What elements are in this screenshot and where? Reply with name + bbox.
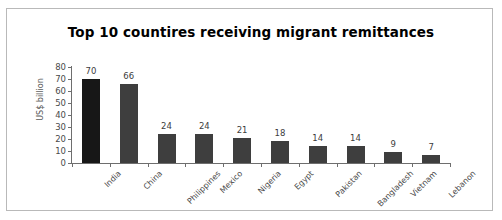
y-tick-label: 20 [55,134,66,144]
plot-area: 0102030405060708070India66China24Philipp… [72,67,450,163]
y-tick-mark [68,91,72,92]
bar-value-label: 24 [199,121,210,131]
y-tick-label: 70 [55,74,66,84]
bar [82,79,100,163]
bar-value-label: 21 [237,125,248,135]
bar [384,152,402,163]
x-tick-mark [185,163,186,167]
bar [422,155,440,163]
y-tick-label: 0 [61,158,66,168]
y-tick-label: 50 [55,98,66,108]
bar-value-label: 18 [274,128,285,138]
bar-value-label: 7 [428,142,433,152]
y-tick-mark [68,127,72,128]
bar [233,138,251,163]
bar [195,134,213,163]
bar-value-label: 14 [312,133,323,143]
x-tick-mark [374,163,375,167]
bar [158,134,176,163]
chart-figure: Top 10 countires receiving migrant remit… [0,0,502,220]
bar-value-label: 66 [123,71,134,81]
y-tick-label: 10 [55,146,66,156]
y-tick-mark [68,79,72,80]
x-tick-mark [72,163,73,167]
x-tick-mark [261,163,262,167]
y-axis-title: US$ billion [36,55,45,145]
y-tick-label: 40 [55,110,66,120]
chart-title: Top 10 countires receiving migrant remit… [0,24,502,40]
bar-value-label: 9 [391,139,396,149]
y-tick-mark [68,115,72,116]
y-tick-mark [68,139,72,140]
x-tick-mark [299,163,300,167]
bar-value-label: 70 [85,66,96,76]
x-tick-mark [450,163,451,167]
bar [271,141,289,163]
x-tick-mark [412,163,413,167]
x-tick-mark [337,163,338,167]
bar-value-label: 14 [350,133,361,143]
bar [120,84,138,163]
bar-value-label: 24 [161,121,172,131]
x-tick-mark [110,163,111,167]
y-tick-label: 80 [55,62,66,72]
x-tick-mark [223,163,224,167]
y-tick-mark [68,103,72,104]
y-tick-label: 60 [55,86,66,96]
y-tick-label: 30 [55,122,66,132]
bar [347,146,365,163]
y-tick-mark [68,151,72,152]
x-tick-mark [148,163,149,167]
bar [309,146,327,163]
y-tick-mark [68,67,72,68]
